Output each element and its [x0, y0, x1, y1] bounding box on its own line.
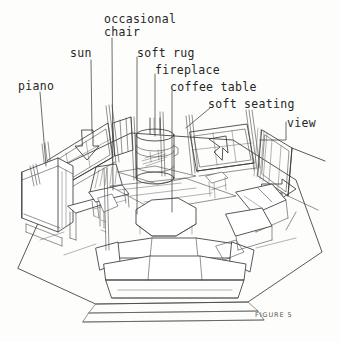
figure-container: piano sun occasional chair soft rug fire… [0, 0, 340, 342]
label-piano: piano [18, 80, 54, 93]
hearth [118, 166, 196, 184]
upright-piano [22, 158, 73, 246]
label-sun: sun [70, 47, 92, 60]
soft-seating-sofa [96, 238, 254, 298]
label-chair: chair [104, 26, 140, 39]
sun-arrow-left [75, 130, 99, 160]
label-view: view [287, 117, 316, 130]
label-occasional: occasional [104, 13, 176, 26]
leader-sun [91, 60, 92, 132]
label-soft-rug: soft rug [137, 47, 195, 60]
label-soft-seating: soft seating [208, 98, 295, 111]
structural-posts [101, 168, 109, 250]
label-coffee-table: coffee table [170, 81, 257, 94]
coffee-table [136, 198, 196, 236]
window-wall-right [186, 110, 260, 176]
label-fireplace: fireplace [155, 64, 220, 77]
figure-caption: FIGURE 5 [255, 311, 292, 319]
side-table [206, 172, 228, 198]
